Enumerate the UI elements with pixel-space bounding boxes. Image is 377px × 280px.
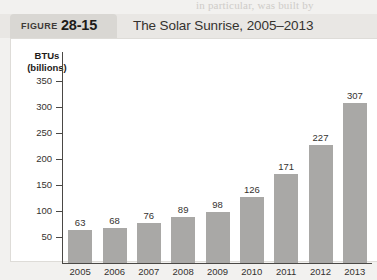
x-axis-label: 2012 bbox=[301, 266, 341, 277]
y-axis-title-line2: (billions) bbox=[16, 62, 78, 74]
x-axis-label: 2010 bbox=[232, 266, 272, 277]
figure-number: 28-15 bbox=[61, 17, 97, 33]
cut-off-body-text: in particular, was built by bbox=[196, 0, 377, 12]
x-axis-label: 2008 bbox=[163, 266, 203, 277]
x-axis-label: 2009 bbox=[198, 266, 238, 277]
x-axis-line bbox=[62, 263, 372, 264]
figure-container: in particular, was built by FIGURE 28-15… bbox=[0, 0, 377, 280]
x-axis-label: 2005 bbox=[60, 266, 100, 277]
figure-word-label: FIGURE bbox=[21, 21, 58, 31]
y-axis-title-line1: BTUs bbox=[16, 50, 78, 62]
x-axis-label: 2013 bbox=[335, 266, 375, 277]
x-axis-label: 2011 bbox=[266, 266, 306, 277]
y-axis-title: BTUs (billions) bbox=[16, 50, 78, 74]
figure-title: The Solar Sunrise, 2005–2013 bbox=[133, 18, 313, 33]
x-axis-label: 2007 bbox=[129, 266, 169, 277]
x-axis-label: 2006 bbox=[95, 266, 135, 277]
